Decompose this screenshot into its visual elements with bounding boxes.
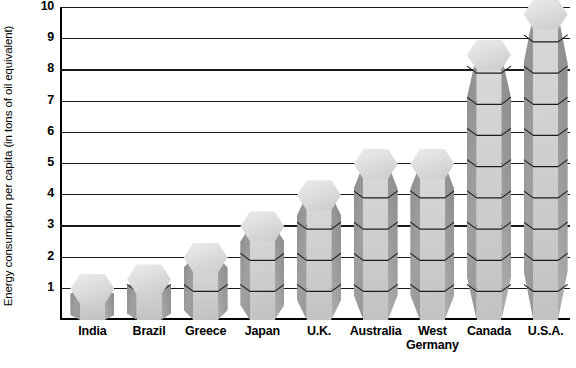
face-right [445, 164, 455, 320]
bar-india [70, 289, 114, 320]
bar-australia [354, 164, 398, 320]
block-seam [297, 221, 341, 230]
face-right [275, 226, 285, 320]
face-front [477, 55, 502, 320]
bar-u.s.a. [524, 14, 568, 320]
x-axis-label: U.S.A. [501, 324, 576, 338]
block-seam [524, 253, 568, 262]
face-right [501, 55, 511, 320]
block-seam [467, 221, 511, 230]
bar-blocks [240, 226, 284, 320]
energy-consumption-bar-chart: Energy consumption per capita (in tons o… [0, 0, 576, 368]
block-seam [410, 221, 454, 230]
bar-blocks [127, 279, 171, 320]
block-seam [240, 284, 284, 293]
face-right [388, 164, 398, 320]
y-axis-tick-label: 6 [34, 123, 54, 139]
block-seam [410, 284, 454, 293]
block-seam [467, 284, 511, 293]
block-seam [524, 221, 568, 230]
face-front [363, 164, 388, 320]
y-axis-tick-label: 8 [34, 60, 54, 76]
y-axis-tick-label: 10 [34, 0, 54, 14]
bar-u.k. [297, 195, 341, 320]
block-seam [297, 253, 341, 262]
block-seam [467, 253, 511, 262]
x-axis-labels-group: IndiaBrazilGreeceJapanU.K.AustraliaWest … [60, 324, 570, 364]
bar-blocks [524, 14, 568, 320]
block-seam [354, 190, 398, 199]
block-seam [354, 221, 398, 230]
y-axis-tick-label: 7 [34, 92, 54, 108]
block-seam [410, 190, 454, 199]
block-seam [240, 253, 284, 262]
block-seam [524, 159, 568, 168]
bar-blocks [354, 164, 398, 320]
bar-blocks [297, 195, 341, 320]
bars-group [60, 8, 570, 320]
face-left [467, 55, 477, 320]
block-seam [354, 253, 398, 262]
face-left [354, 164, 364, 320]
face-front [420, 164, 445, 320]
block-seam [297, 284, 341, 293]
block-seam [184, 284, 228, 293]
y-axis-title-text: Energy consumption per capita (in tons o… [2, 16, 14, 316]
block-seam [410, 253, 454, 262]
plot-area: 12345678910 [60, 8, 570, 320]
y-axis-tick-label: 5 [34, 154, 54, 170]
bar-top-cap [524, 0, 568, 29]
bar-blocks [467, 55, 511, 320]
block-seam [467, 190, 511, 199]
block-seam [524, 284, 568, 293]
y-axis-title: Energy consumption per capita (in tons o… [2, 0, 20, 16]
y-axis-tick-label: 4 [34, 185, 54, 201]
block-seam [524, 190, 568, 199]
block-seam [524, 65, 568, 74]
block-seam [524, 128, 568, 137]
face-left [240, 226, 250, 320]
y-axis-tick-label: 1 [34, 279, 54, 295]
bar-japan [240, 226, 284, 320]
y-axis-tick-label: 2 [34, 248, 54, 264]
bar-canada [467, 55, 511, 320]
bar-brazil [127, 279, 171, 320]
bar-blocks [184, 258, 228, 320]
y-axis-tick-label: 9 [34, 29, 54, 45]
block-seam [524, 34, 568, 43]
bar-west-germany [410, 164, 454, 320]
bar-blocks [410, 164, 454, 320]
block-seam [524, 97, 568, 106]
block-seam [467, 159, 511, 168]
block-seam [467, 97, 511, 106]
block-seam [467, 128, 511, 137]
face-left [410, 164, 420, 320]
bar-blocks [70, 289, 114, 320]
block-seam [354, 284, 398, 293]
y-axis-tick-label: 3 [34, 216, 54, 232]
bar-greece [184, 258, 228, 320]
